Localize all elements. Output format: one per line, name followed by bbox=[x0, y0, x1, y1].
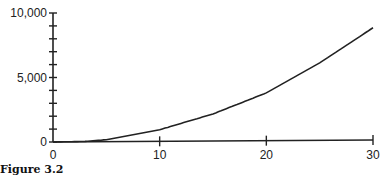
x-tick-label: 10 bbox=[153, 148, 167, 162]
y-tick-label: 5,000 bbox=[17, 71, 47, 85]
x-tick-label: 0 bbox=[50, 148, 57, 162]
x-tick-label: 30 bbox=[366, 148, 380, 162]
y-tick-label: 0 bbox=[40, 135, 47, 149]
y-axis: 05,00010,000 bbox=[10, 6, 57, 149]
data-curve bbox=[53, 28, 373, 142]
x-tick-label: 20 bbox=[260, 148, 274, 162]
y-tick-label: 10,000 bbox=[10, 6, 47, 20]
x-axis: 0102030 bbox=[50, 135, 380, 162]
figure-caption: Figure 3.2 bbox=[0, 163, 63, 176]
line-chart: 05,00010,000 0102030 bbox=[0, 0, 382, 181]
